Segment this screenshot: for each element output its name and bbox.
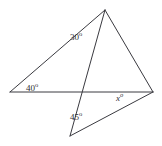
degree-symbol-30: o: [79, 30, 82, 37]
angle-label-45: 45o: [70, 111, 82, 122]
segment-apex-to-left: [10, 10, 105, 92]
degree-symbol-x: o: [120, 91, 123, 98]
segment-apex-to-right: [105, 10, 153, 92]
angle-value-30: 30: [70, 32, 79, 42]
angle-label-40: 40o: [26, 82, 38, 93]
degree-symbol-45: o: [79, 110, 82, 117]
angle-label-x: xo: [116, 92, 123, 103]
angle-value-45: 45: [70, 112, 79, 122]
angle-label-30: 30o: [70, 31, 82, 42]
segment-bottom-to-right: [70, 92, 153, 136]
degree-symbol-40: o: [35, 81, 38, 88]
angle-value-40: 40: [26, 83, 35, 93]
geometry-canvas: [0, 0, 162, 146]
geometry-figure: 30o 40o 45o xo: [0, 0, 162, 146]
